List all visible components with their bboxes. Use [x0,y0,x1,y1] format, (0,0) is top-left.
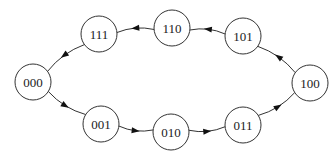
edge-111-to-000 [48,45,85,72]
arrowhead-100-to-101 [275,55,283,62]
state-label-001: 001 [91,117,111,132]
state-node-100: 100 [292,65,328,101]
arrowhead-010-to-011 [203,129,211,135]
state-transition-diagram: 000 001 010 011 100 101 110 111 [0,0,334,158]
state-label-111: 111 [90,27,109,42]
arrowhead-000-to-001 [60,101,68,108]
edge-000-to-001 [48,91,85,114]
nodes-layer: 000 001 010 011 100 101 110 111 [15,10,328,150]
arrowhead-001-to-010 [131,127,139,133]
state-label-010: 010 [161,125,181,140]
state-node-101: 101 [225,18,261,54]
arrowhead-111-to-000 [61,51,69,58]
arrowhead-011-to-100 [273,105,281,112]
state-label-101: 101 [233,29,253,44]
state-label-110: 110 [162,21,181,36]
state-node-000: 000 [15,64,51,100]
state-node-010: 010 [153,114,189,150]
state-label-100: 100 [300,76,320,91]
state-label-011: 011 [233,118,252,133]
state-node-011: 011 [225,107,261,143]
edge-100-to-101 [258,46,296,72]
state-node-001: 001 [83,106,119,142]
arrowhead-110-to-111 [131,25,139,31]
state-node-111: 111 [81,16,117,52]
state-label-000: 000 [23,75,43,90]
arrowhead-101-to-110 [204,27,212,33]
state-node-110: 110 [154,10,190,46]
edge-011-to-100 [258,93,294,116]
